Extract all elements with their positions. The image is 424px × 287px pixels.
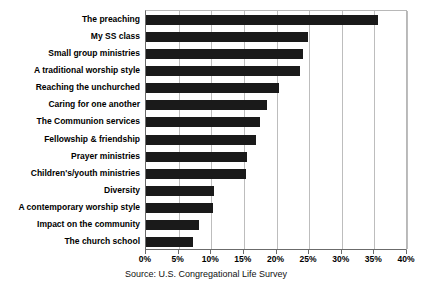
category-label: A traditional worship style [0,65,140,75]
bar [146,49,303,59]
bar [146,237,193,247]
bar [146,15,378,25]
gridline [407,11,408,249]
category-label: Impact on the community [0,219,140,229]
category-label: Reaching the unchurched [0,82,140,92]
bar [146,203,213,213]
gridline [374,11,375,249]
bar [146,117,260,127]
category-label: Prayer ministries [0,151,140,161]
bar [146,100,267,110]
horizontal-bar-chart: The preachingMy SS classSmall group mini… [0,0,424,287]
category-label: My SS class [0,31,140,41]
category-label: Fellowship & friendship [0,134,140,144]
category-label: Children's/youth ministries [0,168,140,178]
gridline [211,11,212,249]
category-label: Small group ministries [0,48,140,58]
source-note: Source: U.S. Congregational Life Survey [0,268,424,280]
bar [146,66,300,76]
category-label: Caring for one another [0,99,140,109]
bar [146,135,256,145]
x-axis-tick-label: 40% [386,254,424,265]
category-label: The preaching [0,14,140,24]
category-label: A contemporary worship style [0,202,140,212]
plot-area [145,10,407,250]
category-label: The Communion services [0,116,140,126]
bar [146,220,199,230]
bar [146,83,279,93]
bar [146,169,246,179]
bar [146,186,214,196]
category-label: The church school [0,236,140,246]
x-axis-tick-labels: 0%5%10%15%20%25%30%35%40% [145,254,407,266]
gridline [179,11,180,249]
bar [146,152,247,162]
category-label: Diversity [0,185,140,195]
gridline [309,11,310,249]
category-axis-labels: The preachingMy SS classSmall group mini… [0,10,143,250]
bar [146,32,308,42]
gridline [277,11,278,249]
gridline [342,11,343,249]
gridline [244,11,245,249]
